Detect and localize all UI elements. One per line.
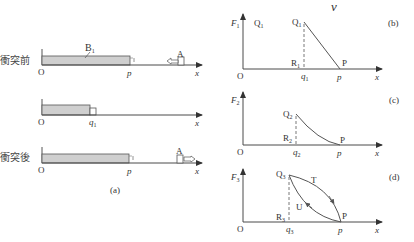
row-during-collision: O q1 x xyxy=(38,99,202,128)
corner-label-q1: Q1 xyxy=(254,18,264,29)
point-q2-label: Q2 xyxy=(283,109,293,120)
right-arrow-icon xyxy=(184,156,195,162)
point-r2-label: R2 xyxy=(283,133,292,144)
tick-p-label-c: p xyxy=(336,148,342,158)
panel-a: 衝突前 B1 A O p x O q1 x xyxy=(0,42,202,195)
top-stray-label: v xyxy=(331,0,337,14)
tick-q2-label: q2 xyxy=(293,147,301,158)
row-before-collision: 衝突前 B1 A O p x xyxy=(0,42,202,78)
panel-a-caption: (a) xyxy=(110,185,120,195)
bar-b1-after xyxy=(42,154,129,163)
origin-label-row1: O xyxy=(38,67,45,77)
panel-b: F1 Q1 Q1 R1 P O q1 p x (b) xyxy=(230,14,399,82)
tick-p-label-b: p xyxy=(336,72,342,82)
row-after-collision: 衝突後 A O p x xyxy=(0,146,202,176)
point-p-label-d: P xyxy=(342,211,347,221)
point-q1-label: Q1 xyxy=(292,17,302,28)
panel-c-caption: (c) xyxy=(389,95,399,105)
point-q3-label: Q3 xyxy=(276,169,286,180)
origin-label-c: O xyxy=(237,147,244,157)
axis-label-x-row1: x xyxy=(194,68,199,78)
origin-label-row3: O xyxy=(38,165,45,175)
end-label-q1-row2: q1 xyxy=(89,117,97,128)
bar-b1 xyxy=(42,56,130,65)
curve-u-label: U xyxy=(296,202,303,212)
tick-q3-label: q3 xyxy=(286,224,294,235)
origin-label-b: O xyxy=(237,71,244,81)
y-axis-label-c: F2 xyxy=(230,95,240,106)
object-a-label-after: A xyxy=(176,146,183,156)
point-r1-label: R1 xyxy=(291,58,300,69)
object-a-after xyxy=(177,155,183,163)
figure-canvas: v 衝突前 B1 A O p x O q1 xyxy=(0,0,414,242)
tick-q1-label: q1 xyxy=(301,71,309,82)
panel-d-caption: (d) xyxy=(389,172,400,182)
origin-label-row2: O xyxy=(38,117,45,127)
end-label-p-row3: p xyxy=(126,166,132,176)
panel-c: F2 Q2 R2 P O q2 p x (c) xyxy=(230,92,399,158)
curve-t-label: T xyxy=(311,175,317,185)
y-axis-label-b: F1 xyxy=(230,18,240,29)
panel-b-caption: (b) xyxy=(388,18,399,28)
axis-label-x-row3: x xyxy=(194,166,199,176)
bar-compressed xyxy=(42,105,90,115)
force-curve-c xyxy=(296,114,340,145)
origin-label-d: O xyxy=(237,224,244,234)
panel-d: F3 T U Q3 R3 P O q3 p x (d) xyxy=(230,169,400,235)
point-p-label-c: P xyxy=(340,135,345,145)
row-label-after: 衝突後 xyxy=(0,151,30,163)
row-label-before: 衝突前 xyxy=(0,54,30,66)
x-axis-label-b: x xyxy=(374,72,379,82)
point-r3-label: R3 xyxy=(276,212,285,223)
y-axis-label-d: F3 xyxy=(230,172,240,183)
axis-label-x-row2: x xyxy=(194,118,199,128)
force-line-b xyxy=(304,22,340,69)
tick-p-label-d: p xyxy=(337,225,343,235)
end-label-p-row1: p xyxy=(126,68,132,78)
x-axis-label-d: x xyxy=(374,225,379,235)
x-axis-label-c: x xyxy=(374,148,379,158)
object-a-label-before: A xyxy=(177,49,184,59)
point-p-label-b: P xyxy=(342,58,347,68)
contact-box xyxy=(90,108,96,115)
